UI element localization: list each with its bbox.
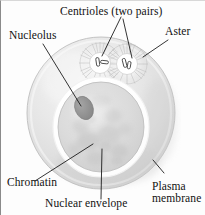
label-aster: Aster <box>165 26 190 38</box>
label-nucleolus: Nucleolus <box>9 30 57 42</box>
label-chromatin: Chromatin <box>7 177 57 189</box>
diagram-stage: Centrioles (two pairs) Aster Nucleolus C… <box>1 1 205 215</box>
diagram-frame: Centrioles (two pairs) Aster Nucleolus C… <box>0 0 205 215</box>
label-centrioles: Centrioles (two pairs) <box>60 6 162 18</box>
label-plasma-membrane: Plasma membrane <box>152 180 205 205</box>
label-plasma-membrane-line1: Plasma <box>152 180 186 192</box>
leader-aster <box>143 40 168 57</box>
label-nuclear-envelope: Nuclear envelope <box>45 198 127 210</box>
centriole-pair-left <box>90 53 111 74</box>
centriole-pair-right <box>117 54 138 75</box>
label-plasma-membrane-line2: membrane <box>152 192 201 204</box>
